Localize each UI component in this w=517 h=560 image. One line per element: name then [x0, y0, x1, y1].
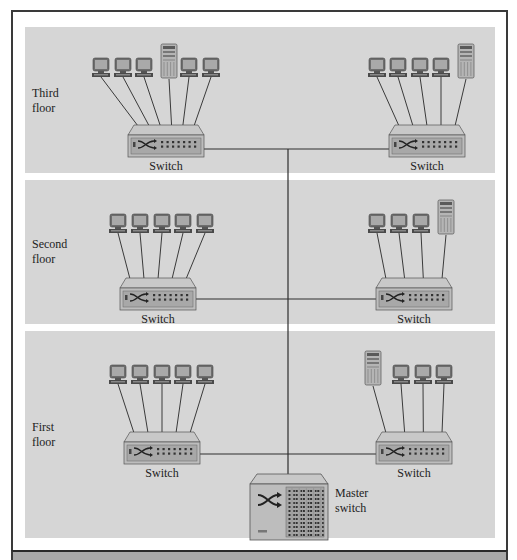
switch-label: Switch — [141, 312, 174, 326]
server-icon — [438, 200, 454, 234]
server-icon — [458, 44, 474, 78]
pc-icon — [389, 58, 407, 77]
pc-icon — [392, 365, 410, 384]
pc-icon — [432, 58, 450, 77]
master-switch-label-line: Master — [335, 486, 368, 500]
pc-icon — [114, 58, 132, 77]
network-diagram: ThirdfloorSecondfloorFirstfloorSwitchSwi… — [0, 0, 517, 560]
pc-icon — [435, 365, 453, 384]
pc-icon — [390, 214, 408, 233]
floor-label-first: Firstfloor — [32, 420, 55, 449]
pc-icon — [412, 214, 430, 233]
pc-icon — [131, 365, 149, 384]
pc-icon — [131, 214, 149, 233]
pc-icon — [109, 365, 127, 384]
switch-label: Switch — [410, 159, 443, 173]
floor-label-first-line: First — [32, 420, 55, 434]
switch-second-right — [376, 278, 452, 310]
pc-icon — [196, 365, 214, 384]
pc-icon — [153, 214, 171, 233]
pc-icon — [368, 58, 386, 77]
pc-icon — [174, 214, 192, 233]
switch-label: Switch — [397, 312, 430, 326]
floor-label-first-line: floor — [32, 435, 55, 449]
switch-third-left — [128, 125, 204, 157]
switch-second-left — [120, 278, 196, 310]
switch-label: Switch — [145, 466, 178, 480]
pc-icon — [414, 365, 432, 384]
floor-label-third-line: floor — [32, 101, 55, 115]
pc-icon — [368, 214, 386, 233]
pc-icon — [174, 365, 192, 384]
master-switch-label: Masterswitch — [335, 486, 368, 515]
switch-label: Switch — [149, 159, 182, 173]
pc-icon — [109, 214, 127, 233]
pc-icon — [135, 58, 153, 77]
pc-icon — [202, 58, 220, 77]
switch-first-right — [376, 432, 452, 464]
master-switch — [250, 474, 328, 540]
floor-label-second-line: floor — [32, 252, 55, 266]
server-icon — [365, 351, 381, 385]
pc-icon — [180, 58, 198, 77]
floor-label-third: Thirdfloor — [32, 86, 59, 115]
switch-third-right — [389, 125, 465, 157]
pc-icon — [411, 58, 429, 77]
pc-icon — [92, 58, 110, 77]
pc-icon — [196, 214, 214, 233]
master-switch-label-line: switch — [335, 501, 366, 515]
pc-icon — [153, 365, 171, 384]
server-icon — [161, 44, 177, 78]
switch-first-left — [124, 432, 200, 464]
floor-label-third-line: Third — [32, 86, 59, 100]
floor-label-second-line: Second — [32, 237, 67, 251]
switch-label: Switch — [397, 466, 430, 480]
